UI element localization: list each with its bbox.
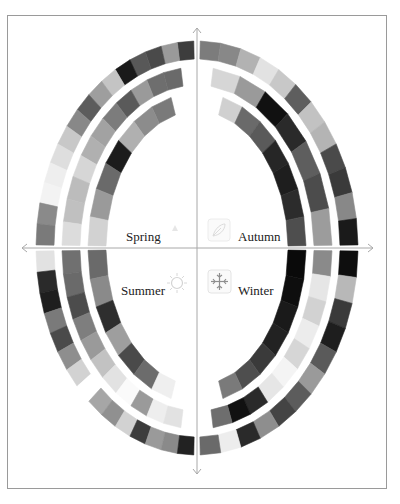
swatch-winter-inner (286, 250, 306, 279)
swatch-autumn-inner (286, 217, 306, 246)
swatch-spring-middle (63, 199, 84, 225)
swatch-winter-outer (339, 251, 358, 278)
swatch-spring-inner (88, 217, 108, 246)
color-wheel (0, 0, 400, 504)
swatch-spring-outer (177, 41, 194, 60)
swatch-winter-outer (200, 435, 221, 455)
swatch-autumn-middle (304, 173, 329, 212)
label-spring: Spring (126, 229, 161, 245)
label-winter: Winter (238, 283, 274, 299)
swatch-summer-inner (88, 250, 108, 279)
swatch-spring-outer (36, 224, 55, 245)
swatch-autumn-middle (311, 208, 332, 245)
swatch-autumn-outer (339, 219, 358, 246)
swatch-spring-outer (37, 203, 57, 226)
swatch-winter-middle (313, 250, 332, 276)
swatch-summer-outer (177, 436, 194, 455)
label-summer: Summer (121, 283, 165, 299)
flower-icon (168, 222, 182, 236)
swatch-summer-middle (62, 250, 81, 274)
swatch-spring-middle (62, 222, 81, 246)
leaf-icon (207, 218, 231, 242)
swatch-autumn-outer (335, 193, 357, 221)
swatch-autumn-outer (200, 41, 221, 61)
label-autumn: Autumn (238, 229, 281, 245)
sun-icon (166, 272, 188, 294)
snowflake-icon (207, 269, 232, 294)
swatch-winter-outer (335, 275, 357, 303)
swatch-summer-outer (36, 251, 55, 272)
